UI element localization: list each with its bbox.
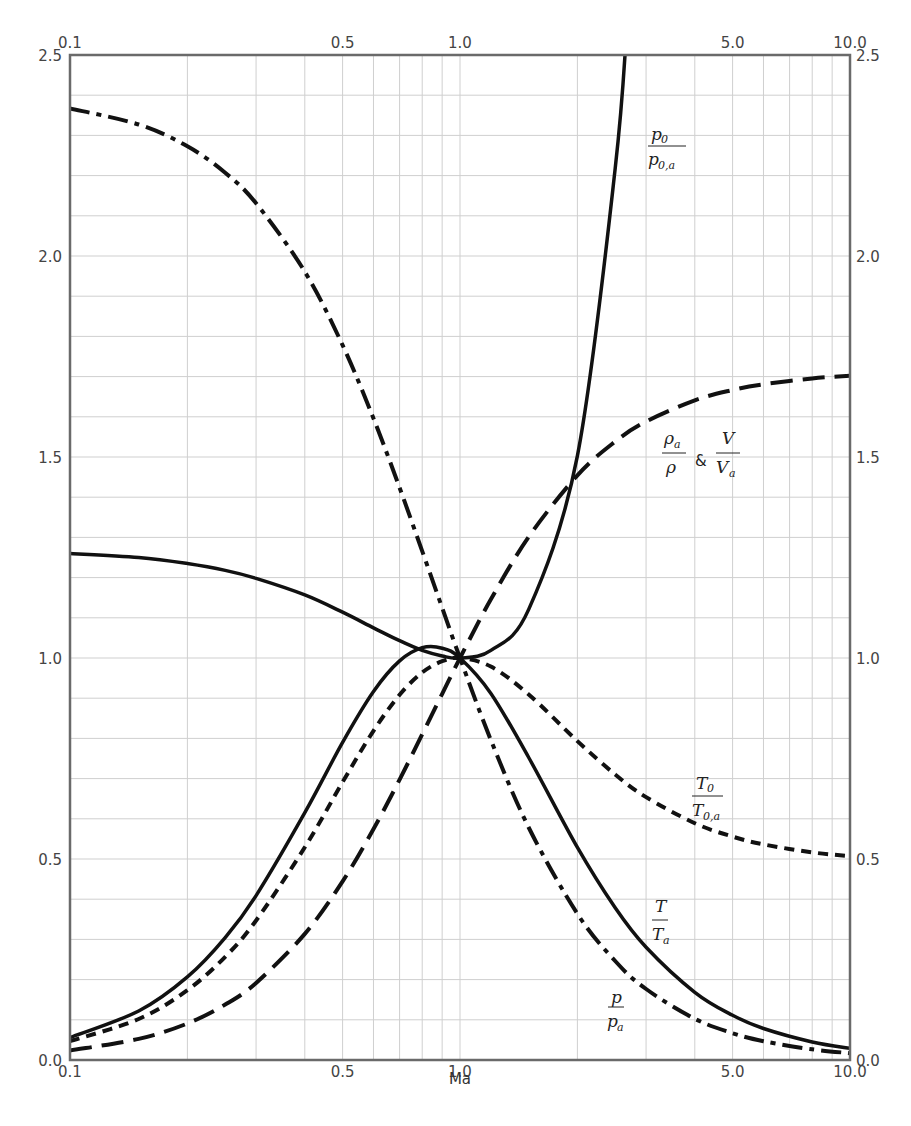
y-tick-label-left: 2.0 [38, 248, 62, 266]
svg-text:p: p [611, 987, 622, 1007]
svg-text:0,a: 0,a [658, 159, 675, 172]
svg-text:ρ: ρ [663, 428, 674, 448]
y-tick-label-right: 0.5 [856, 851, 880, 869]
svg-text:a: a [663, 934, 670, 947]
y-tick-label-right: 2.5 [856, 47, 880, 65]
x-tick-label-top: 1.0 [448, 34, 472, 52]
x-tick-label-top: 0.5 [331, 34, 355, 52]
svg-text:a: a [617, 1021, 624, 1034]
svg-text:&: & [695, 452, 707, 470]
grid-lines [70, 55, 850, 1060]
y-tick-label-right: 2.0 [856, 248, 880, 266]
svg-text:V: V [716, 457, 730, 477]
label-pressure-ratio: p p a [607, 987, 624, 1034]
y-tick-label-left: 1.5 [38, 449, 62, 467]
y-tick-label-left: 2.5 [38, 47, 62, 65]
label-density-velocity-ratio: ρ a ρ & V V a [662, 428, 740, 480]
label-p0-ratio: p 0 p 0,a [648, 124, 686, 172]
label-temperature-ratio: T T a [652, 896, 670, 947]
svg-text:T: T [655, 896, 668, 916]
y-tick-label-right: 1.5 [856, 449, 880, 467]
y-tick-label-left: 0.0 [38, 1052, 62, 1070]
y-tick-label-right: 0.0 [856, 1052, 880, 1070]
curve-p0-p0-a [70, 0, 640, 658]
svg-text:ρ: ρ [665, 457, 676, 477]
rayleigh-flow-chart: 0.10.51.05.010.00.10.51.05.010.00.00.51.… [0, 0, 911, 1126]
x-axis-label: Ma [449, 1070, 471, 1088]
svg-text:0: 0 [661, 133, 668, 146]
y-tick-label-left: 0.5 [38, 851, 62, 869]
svg-text:0: 0 [707, 782, 714, 795]
y-tick-label-right: 1.0 [856, 650, 880, 668]
x-tick-label-bottom: 0.5 [331, 1063, 355, 1081]
svg-text:a: a [729, 467, 736, 480]
x-tick-label-top: 5.0 [721, 34, 745, 52]
tick-labels: 0.10.51.05.010.00.10.51.05.010.00.00.51.… [38, 34, 880, 1081]
label-stagnation-temperature-ratio: T 0 T 0,a [692, 773, 723, 823]
svg-text:0,a: 0,a [703, 810, 720, 823]
y-tick-label-left: 1.0 [38, 650, 62, 668]
svg-text:a: a [674, 438, 681, 451]
x-tick-label-bottom: 5.0 [721, 1063, 745, 1081]
svg-text:V: V [722, 428, 736, 448]
